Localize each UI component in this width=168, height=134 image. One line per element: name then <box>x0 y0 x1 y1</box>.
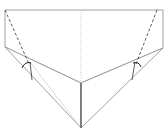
fold-diagram <box>0 0 168 134</box>
